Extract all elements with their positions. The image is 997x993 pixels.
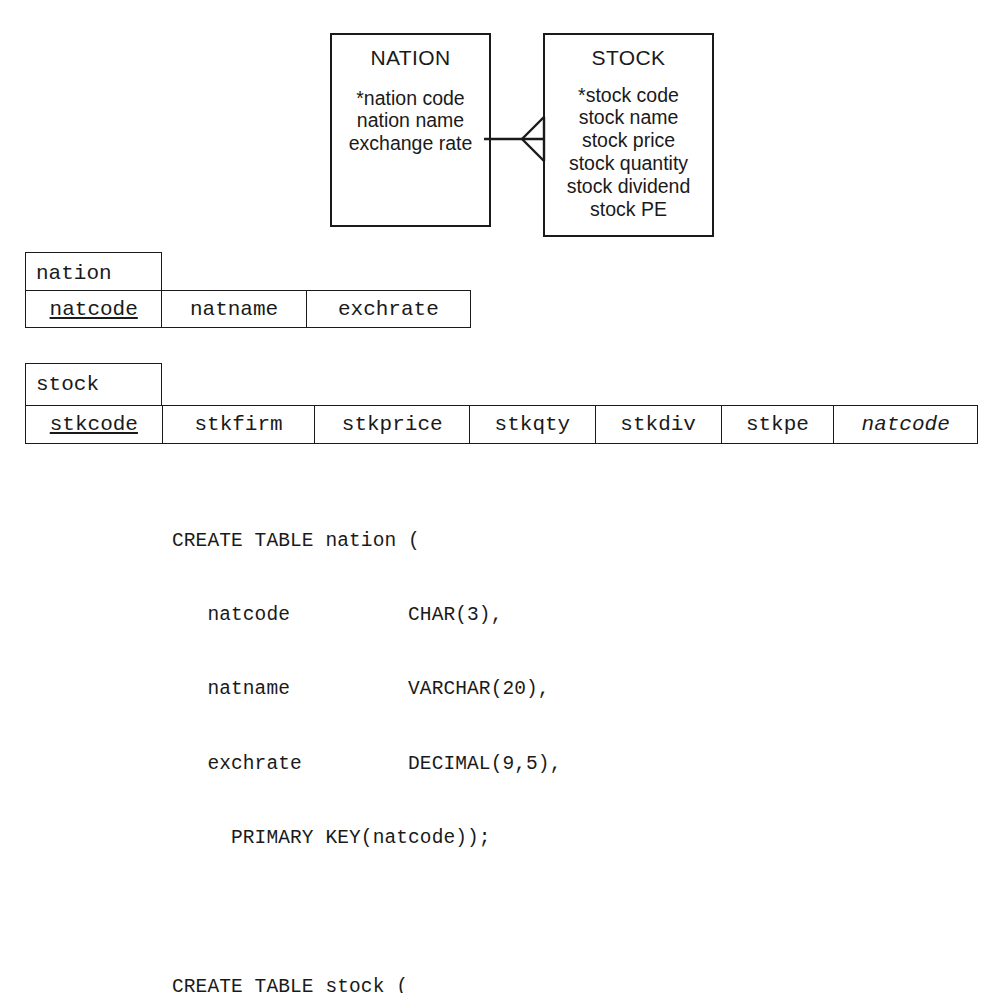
er-relationship-crows-foot-connector: [484, 110, 554, 168]
relation-name-stock: stock: [25, 363, 162, 406]
relation-column-stkdiv: stkdiv: [596, 406, 722, 443]
relation-column-stkpe: stkpe: [722, 406, 835, 443]
relation-column-natcode: natcode: [26, 291, 162, 327]
sql-ddl-block: CREATE TABLE nation ( natcode CHAR(3), n…: [172, 479, 727, 993]
sql-line: CREATE TABLE stock (: [172, 975, 727, 993]
sql-line: natname VARCHAR(20),: [172, 677, 727, 702]
relation-column-stkfirm: stkfirm: [163, 406, 316, 443]
sql-line: CREATE TABLE nation (: [172, 529, 727, 554]
sql-line: exchrate DECIMAL(9,5),: [172, 752, 727, 777]
er-diagram: NATION *nation code nation name exchange…: [0, 0, 997, 245]
er-entity-nation: NATION *nation code nation name exchange…: [330, 33, 491, 227]
relation-column-stkqty: stkqty: [470, 406, 596, 443]
sql-line: [172, 901, 727, 926]
relation-column-stkcode: stkcode: [26, 406, 163, 443]
er-entity-stock-attributes: *stock code stock name stock price stock…: [545, 84, 712, 221]
er-entity-stock-title: STOCK: [545, 46, 712, 70]
er-entity-nation-title: NATION: [332, 46, 489, 70]
er-entity-stock: STOCK *stock code stock name stock price…: [543, 33, 714, 237]
sql-line: PRIMARY KEY(natcode));: [172, 826, 727, 851]
relation-column-exchrate: exchrate: [307, 291, 470, 327]
relation-attribute-row-nation: natcode natname exchrate: [25, 290, 471, 328]
relation-name-nation: nation: [25, 252, 162, 291]
sql-line: natcode CHAR(3),: [172, 603, 727, 628]
relation-column-stkprice: stkprice: [315, 406, 470, 443]
relation-column-natname: natname: [162, 291, 306, 327]
er-entity-nation-attributes: *nation code nation name exchange rate: [332, 87, 489, 155]
relation-attribute-row-stock: stkcode stkfirm stkprice stkqty stkdiv s…: [25, 405, 978, 444]
relation-column-natcode-fk: natcode: [834, 406, 977, 443]
